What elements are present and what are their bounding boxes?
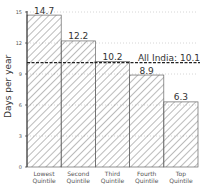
category-label: Fourth (137, 170, 157, 177)
y-axis-label: Days per year (3, 54, 13, 118)
y-tick-label: 6 (19, 102, 22, 108)
bar-chart: 03691215 14.7LowestQuintile12.2SecondQui… (0, 0, 207, 190)
y-tick-label: 9 (19, 71, 22, 77)
category-label: Lowest (34, 170, 56, 177)
y-tick-label: 3 (19, 133, 22, 139)
y-tick-label: 15 (16, 9, 22, 15)
reference-line-label: All India: 10.1 (138, 53, 200, 63)
category-label: Quintile (135, 177, 159, 184)
category-label: Quintile (101, 177, 125, 184)
y-tick-label: 12 (16, 40, 22, 46)
category-label: Quintile (32, 177, 56, 184)
value-label: 10.2 (102, 52, 122, 62)
bars (27, 15, 198, 167)
category-label: Second (67, 170, 89, 177)
bar-4 (164, 102, 198, 167)
value-label: 12.2 (68, 31, 88, 41)
bar-0 (27, 15, 61, 167)
category-label: Quintile (169, 177, 193, 184)
category-label: Third (104, 170, 120, 177)
value-label: 6.3 (174, 92, 188, 102)
y-axis: 03691215 (16, 9, 27, 170)
value-label: 8.9 (140, 66, 155, 76)
bar-1 (61, 41, 95, 167)
value-label: 14.7 (34, 6, 54, 16)
y-tick-label: 0 (19, 164, 22, 170)
category-label: Quintile (67, 177, 91, 184)
bar-3 (130, 75, 164, 167)
bar-2 (95, 62, 129, 167)
